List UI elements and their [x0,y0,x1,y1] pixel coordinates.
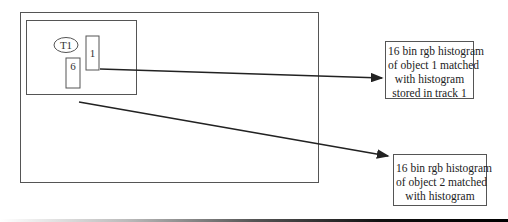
object-1-box: 1 [86,36,99,70]
note-line: 16 bin rgb histogram [396,161,484,175]
arrow-object-2 [79,102,388,156]
object-1-histogram-note: 16 bin rgb histogram of object 1 matched… [385,41,474,99]
track-ellipse: T1 [54,38,78,53]
track-label: T1 [60,39,72,51]
note-line: of object 1 matched [388,58,471,72]
bottom-rule [0,219,508,222]
object-2-box: 6 [66,58,80,88]
note-line: with histogram [396,189,484,203]
object-2-histogram-note: 16 bin rgb histogram of object 2 matched… [393,154,487,206]
object-1-label: 1 [90,47,96,59]
note-line: of object 2 matched [396,175,484,189]
note-line: with histogram [388,72,471,86]
object-2-label: 6 [70,60,76,72]
note-line: 16 bin rgb histogram [388,44,471,58]
note-line: stored in track 1 [388,86,471,100]
arrow-object-1 [100,69,382,78]
